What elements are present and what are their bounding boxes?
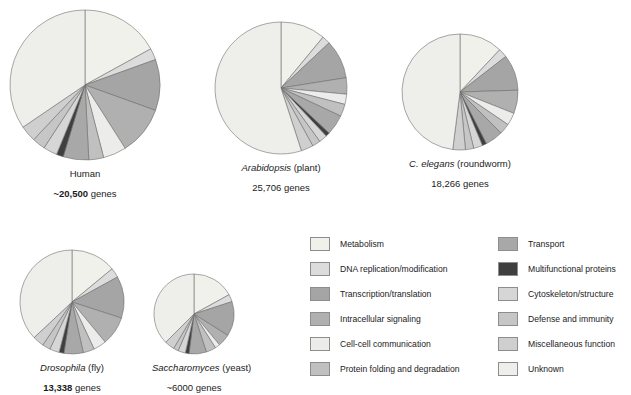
species-label-human: Human <box>8 168 162 179</box>
gene-count-number: 18,266 <box>431 178 460 189</box>
pie-svg <box>152 272 236 356</box>
species-genus: Human <box>70 168 101 179</box>
pie-svg <box>18 248 126 356</box>
pie-panel-saccharomyces: Saccharomyces (yeast)~6000 genes <box>152 272 236 393</box>
species-label-saccharomyces: Saccharomyces (yeast) <box>152 362 236 373</box>
species-common-name: (yeast) <box>220 362 252 373</box>
legend-swatch <box>310 337 330 351</box>
gene-count-celegans: 18,266 genes <box>400 178 520 189</box>
legend-swatch <box>498 337 518 351</box>
legend-swatch <box>498 237 518 251</box>
gene-count-word: genes <box>72 382 101 393</box>
pie-panel-celegans: C. elegans (roundworm)18,266 genes <box>400 32 520 189</box>
legend-swatch <box>310 312 330 326</box>
legend-label: Multifunctional proteins <box>528 264 616 274</box>
gene-count-word: genes <box>193 382 222 393</box>
legend-item: Miscellaneous function <box>498 331 631 356</box>
legend-label: Unknown <box>528 364 564 374</box>
legend-label: Transcription/translation <box>340 289 431 299</box>
legend-swatch <box>310 237 330 251</box>
species-genus: Arabidopsis <box>241 162 291 173</box>
legend-item: Metabolism <box>310 231 495 256</box>
gene-count-number: 13,338 <box>43 382 72 393</box>
legend-swatch <box>310 287 330 301</box>
gene-count-saccharomyces: ~6000 genes <box>152 382 236 393</box>
pie-svg <box>213 20 349 156</box>
species-common-name: (fly) <box>85 362 103 373</box>
species-genus: Drosophila <box>40 362 85 373</box>
gene-count-arabidopsis: 25,706 genes <box>213 182 349 193</box>
legend-swatch <box>310 362 330 376</box>
legend-item: Unknown <box>498 356 631 381</box>
legend-label: Miscellaneous function <box>528 339 615 349</box>
gene-count-word: genes <box>88 188 117 199</box>
legend-item: Defense and immunity <box>498 306 631 331</box>
gene-count-human: ~20,500 genes <box>8 188 162 199</box>
pie-svg <box>8 8 162 162</box>
legend-swatch <box>498 287 518 301</box>
species-label-drosophila: Drosophila (fly) <box>18 362 126 373</box>
legend-swatch <box>310 262 330 276</box>
species-common-name: (roundworm) <box>454 158 511 169</box>
legend-swatch <box>498 312 518 326</box>
legend-column-left: MetabolismDNA replication/modificationTr… <box>310 231 495 381</box>
legend-item: Cell-cell communication <box>310 331 495 356</box>
gene-count-number: ~20,500 <box>53 188 88 199</box>
pie-panel-human: Human~20,500 genes <box>8 8 162 199</box>
gene-count-drosophila: 13,338 genes <box>18 382 126 393</box>
legend-item: Transcription/translation <box>310 281 495 306</box>
legend-swatch <box>498 362 518 376</box>
legend-label: Defense and immunity <box>528 314 614 324</box>
legend-label: DNA replication/modification <box>340 264 447 274</box>
gene-count-word: genes <box>281 182 310 193</box>
species-genus: C. elegans <box>409 158 454 169</box>
legend: MetabolismDNA replication/modificationTr… <box>310 231 631 395</box>
legend-label: Protein folding and degradation <box>340 364 459 374</box>
gene-count-word: genes <box>460 178 489 189</box>
pie-slice <box>402 34 460 150</box>
legend-label: Metabolism <box>340 239 384 249</box>
legend-label: Cytoskeleton/structure <box>528 289 614 299</box>
pie-svg <box>400 32 520 152</box>
legend-item: Transport <box>498 231 631 256</box>
gene-count-number: ~6000 <box>166 382 193 393</box>
species-label-arabidopsis: Arabidopsis (plant) <box>213 162 349 173</box>
legend-label: Intracellular signaling <box>340 314 421 324</box>
legend-item: Cytoskeleton/structure <box>498 281 631 306</box>
legend-item: DNA replication/modification <box>310 256 495 281</box>
legend-item: Intracellular signaling <box>310 306 495 331</box>
legend-label: Cell-cell communication <box>340 339 431 349</box>
pie-panel-arabidopsis: Arabidopsis (plant)25,706 genes <box>213 20 349 193</box>
species-label-celegans: C. elegans (roundworm) <box>400 158 520 169</box>
legend-item: Protein folding and degradation <box>310 356 495 381</box>
legend-item: Multifunctional proteins <box>498 256 631 281</box>
legend-swatch <box>498 262 518 276</box>
legend-label: Transport <box>528 239 564 249</box>
species-genus: Saccharomyces <box>152 362 220 373</box>
species-common-name: (plant) <box>291 162 321 173</box>
gene-count-number: 25,706 <box>252 182 281 193</box>
legend-column-right: TransportMultifunctional proteinsCytoske… <box>498 231 631 381</box>
pie-panel-drosophila: Drosophila (fly)13,338 genes <box>18 248 126 393</box>
